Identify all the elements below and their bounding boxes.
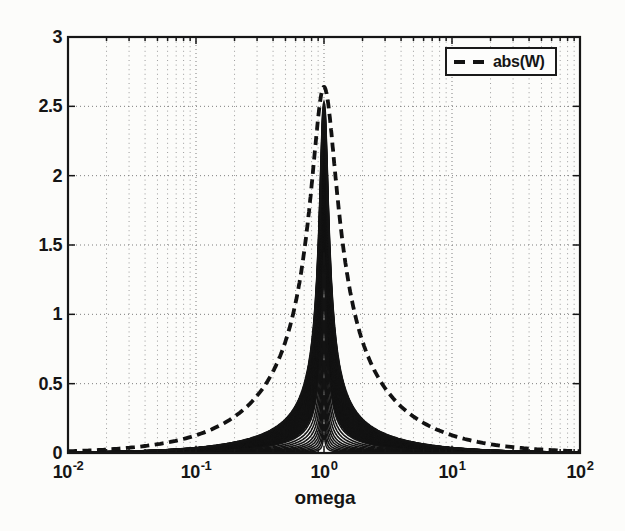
dashed-line-sample-icon — [454, 60, 484, 64]
x-tick-label-1e-1: 10-1 — [164, 459, 228, 483]
legend-box: abs(W) — [445, 47, 557, 76]
plot-canvas — [0, 0, 625, 531]
frequency-response-figure: 3 2.5 2 1.5 1 0.5 0 10-2 10-1 100 101 10… — [0, 0, 625, 531]
y-tick-label-1: 1 — [2, 304, 62, 325]
legend-label: abs(W) — [493, 53, 545, 71]
y-tick-label-0-5: 0.5 — [2, 374, 62, 395]
x-tick-label-1e2: 102 — [548, 459, 612, 483]
x-tick-label-1e-2: 10-2 — [36, 459, 100, 483]
x-axis-label: omega — [265, 487, 385, 509]
y-tick-label-2-5: 2.5 — [2, 96, 62, 117]
y-tick-label-3: 3 — [2, 27, 62, 48]
x-tick-label-1e1: 101 — [420, 459, 484, 483]
y-tick-label-1-5: 1.5 — [2, 235, 62, 256]
y-tick-label-2: 2 — [2, 166, 62, 187]
x-tick-label-1e0: 100 — [292, 459, 356, 483]
